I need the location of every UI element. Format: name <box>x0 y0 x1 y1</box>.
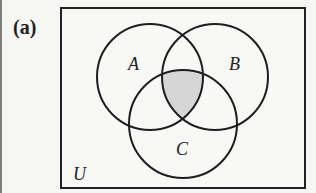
venn-diagram: (a) A B C U <box>0 0 316 193</box>
set-label-c: C <box>176 139 189 159</box>
panel-label: (a) <box>13 16 36 39</box>
set-label-a: A <box>127 54 140 74</box>
universe-label: U <box>73 164 87 184</box>
set-label-b: B <box>229 54 240 74</box>
